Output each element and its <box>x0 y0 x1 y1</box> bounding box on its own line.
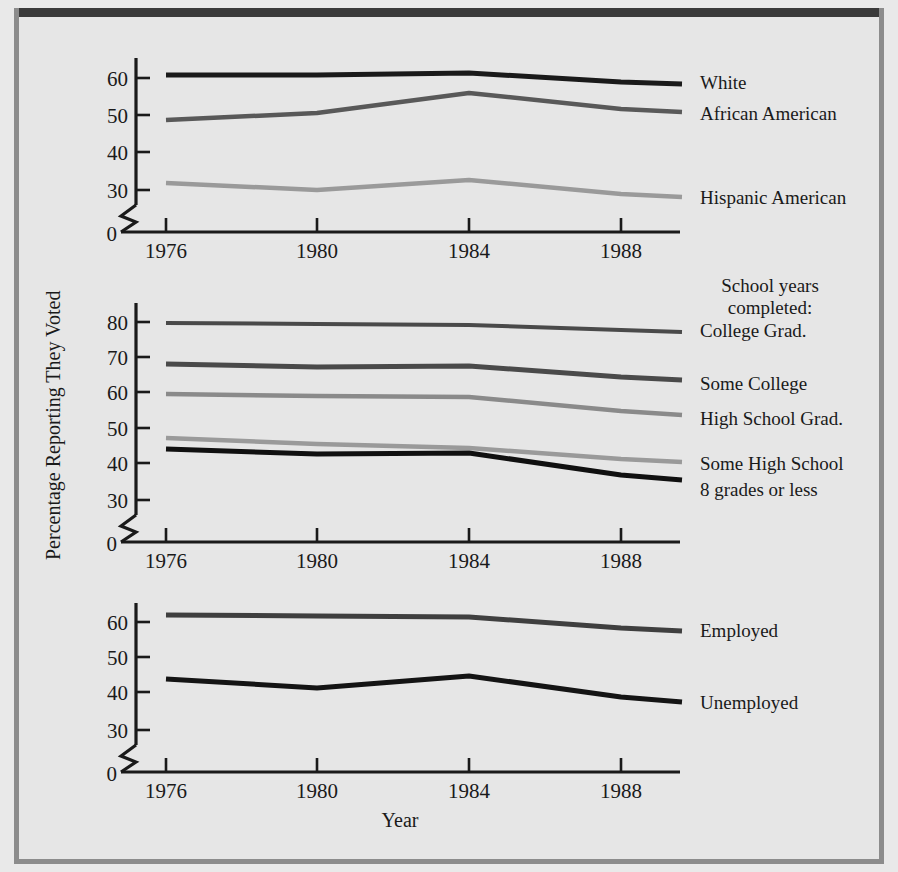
panel1-xlabel-1984: 1984 <box>448 239 491 263</box>
panel3-xlabel-1988: 1988 <box>600 779 642 803</box>
panel1-series-hispanic-american <box>166 180 682 197</box>
panel2-ylabel-30: 30 <box>107 489 128 513</box>
panel2-label-some-college: Some College <box>700 373 807 394</box>
panel1-series-african-american <box>166 93 682 120</box>
panel2-ylabel-40: 40 <box>107 452 128 476</box>
panel2-axis-break <box>121 515 136 542</box>
panel2-label-college-grad: College Grad. <box>700 320 807 341</box>
panel1-xlabel-1980: 1980 <box>296 239 338 263</box>
chart-page: Percentage Reporting They Voted 60 50 40… <box>0 0 898 872</box>
panel2-label-high-school-grad: High School Grad. <box>700 408 843 429</box>
legend-heading-line2: completed: <box>728 297 812 318</box>
panel1-ylabel-40: 40 <box>107 141 128 165</box>
panel3-label-employed: Employed <box>700 620 779 641</box>
panel1-axis-break <box>121 205 136 232</box>
panel2-ylabel-50: 50 <box>107 417 128 441</box>
panel3-series-employed <box>166 615 682 631</box>
panel1-label-white: White <box>700 72 746 93</box>
panel2-series-some-college <box>166 364 682 380</box>
panel1-series-white <box>166 73 682 84</box>
panel2-series-college-grad <box>166 323 682 332</box>
panel2-label-some-high-school: Some High School <box>700 453 844 474</box>
panel2-series-high-school-grad <box>166 394 682 415</box>
panel1-ylabel-60: 60 <box>107 67 128 91</box>
panel3-ylabel-30: 30 <box>107 719 128 743</box>
panel1-ylabel-50: 50 <box>107 104 128 128</box>
panel-race-ethnicity: 60 50 40 30 0 1976 1980 1984 1988 White … <box>107 58 847 263</box>
panel3-ylabel-0: 0 <box>107 762 118 786</box>
x-axis-title: Year <box>382 809 419 831</box>
panel-employment-status: 60 50 40 30 0 1976 1980 1984 1988 Employ… <box>107 603 799 803</box>
panel1-ylabel-30: 30 <box>107 179 128 203</box>
panel1-xlabel-1976: 1976 <box>145 239 187 263</box>
panel2-ylabel-80: 80 <box>107 311 128 335</box>
panel3-label-unemployed: Unemployed <box>700 692 799 713</box>
panel1-label-hispanic-american: Hispanic American <box>700 187 847 208</box>
panel1-ylabel-0: 0 <box>107 222 118 246</box>
y-axis-title: Percentage Reporting They Voted <box>42 291 65 560</box>
panel2-ylabel-60: 60 <box>107 381 128 405</box>
legend-heading-line1: School years <box>721 275 819 296</box>
multi-panel-line-chart: Percentage Reporting They Voted 60 50 40… <box>0 0 898 872</box>
panel3-ylabel-50: 50 <box>107 646 128 670</box>
panel-school-years-completed: 80 70 60 50 40 30 0 1976 1980 1984 1988 <box>107 303 844 573</box>
panel2-xlabel-1980: 1980 <box>296 549 338 573</box>
panel2-xlabel-1984: 1984 <box>448 549 491 573</box>
panel2-ylabel-0: 0 <box>107 532 118 556</box>
panel1-xlabel-1988: 1988 <box>600 239 642 263</box>
panel1-label-african-american: African American <box>700 103 837 124</box>
panel2-xlabel-1988: 1988 <box>600 549 642 573</box>
panel3-ylabel-60: 60 <box>107 611 128 635</box>
panel3-axis-break <box>121 745 136 772</box>
panel3-xlabel-1980: 1980 <box>296 779 338 803</box>
panel2-series-8-grades-or-less <box>166 449 682 480</box>
panel2-label-8-grades-or-less: 8 grades or less <box>700 479 818 500</box>
panel2-xlabel-1976: 1976 <box>145 549 187 573</box>
panel3-xlabel-1976: 1976 <box>145 779 187 803</box>
panel3-xlabel-1984: 1984 <box>448 779 491 803</box>
panel3-ylabel-40: 40 <box>107 681 128 705</box>
panel2-ylabel-70: 70 <box>107 346 128 370</box>
panel3-series-unemployed <box>166 676 682 702</box>
